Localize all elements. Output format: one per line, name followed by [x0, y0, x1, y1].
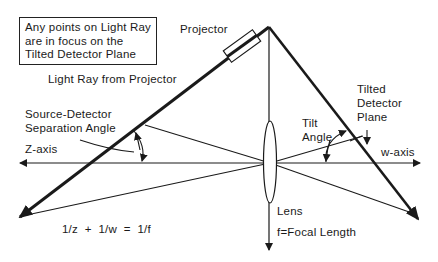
- tilted-plane-label-1: Tilted: [357, 83, 386, 96]
- light-ray-label: Light Ray from Projector: [48, 73, 177, 86]
- lens-label: Lens: [277, 205, 303, 218]
- projector-label: Projector: [180, 23, 228, 36]
- note-line-1: Any points on Light Ray: [25, 21, 151, 35]
- projector-icon: [223, 30, 260, 62]
- focal-length-label: f=Focal Length: [277, 226, 356, 239]
- note-line-2: are in focus on the: [25, 35, 151, 49]
- tilt-label-2: Angle: [302, 131, 332, 144]
- w-axis-label: w-axis: [381, 146, 415, 159]
- optics-diagram: Any points on Light Ray are in focus on …: [0, 0, 438, 262]
- tilted-detector-plane: [269, 27, 418, 219]
- tilt-label-1: Tilt: [302, 117, 318, 130]
- lens-equation: 1/z + 1/w = 1/f: [62, 223, 151, 236]
- z-axis-label: Z-axis: [25, 143, 58, 156]
- source-detector-label-1: Source-Detector: [25, 108, 112, 121]
- focus-note-box: Any points on Light Ray are in focus on …: [19, 17, 157, 65]
- lens-shape: [264, 121, 277, 203]
- tilted-plane-label-2: Detector: [357, 97, 402, 110]
- note-line-3: Tilted Detector Plane: [25, 48, 151, 62]
- source-detector-label-2: Separation Angle: [25, 122, 116, 135]
- tilted-plane-label-3: Plane: [357, 111, 387, 124]
